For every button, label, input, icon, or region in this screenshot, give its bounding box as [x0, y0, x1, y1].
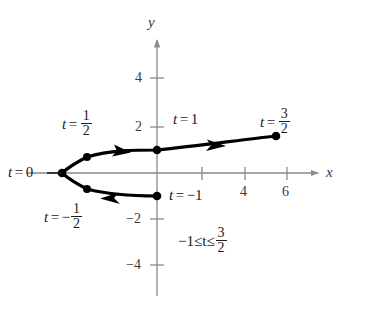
label-t-three-half-numerator: 3	[279, 107, 290, 121]
label-t-1: t = 1	[173, 112, 198, 127]
x-axis-label: x	[326, 164, 333, 181]
label-t-three-half-fraction: 3 2	[279, 107, 290, 137]
label-t-half-var: t	[62, 117, 66, 132]
range-upper-numerator: 3	[216, 226, 227, 240]
axes-group	[28, 40, 318, 296]
label-t-neg-1: t = − 1	[169, 188, 203, 203]
label-t-0-op: =	[15, 165, 23, 180]
label-t-half-denominator: 2	[81, 123, 92, 138]
label-t-neg-1-value: 1	[195, 188, 203, 203]
label-t-three-half-denominator: 2	[279, 121, 290, 136]
label-t-neg-half-sign: −	[62, 210, 70, 225]
y-tick-label-2: 2	[135, 119, 142, 135]
parametric-plot-svg	[0, 0, 371, 310]
x-tick-label-4: 4	[240, 184, 247, 200]
label-t-1-var: t	[173, 112, 177, 127]
label-t-neg-half-denominator: 2	[71, 216, 82, 231]
label-t-three-half-var: t	[260, 115, 264, 130]
figure-canvas: x y 4 2 −2 −4 4 6 t = 0 t = 1 2 t = − 1 …	[0, 0, 371, 310]
x-tick-label-6: 6	[282, 184, 289, 200]
range-rel-left: ≤	[194, 233, 202, 250]
range-upper-fraction: 3 2	[216, 226, 227, 256]
label-t-neg-half-numerator: 1	[71, 202, 82, 216]
label-t-neg-1-op: =	[176, 188, 184, 203]
label-t-half-op: =	[69, 117, 77, 132]
point-t-neg1	[153, 192, 162, 201]
label-t-half: t = 1 2	[62, 110, 93, 140]
label-t-neg-half-var: t	[44, 210, 48, 225]
label-t-half-fraction: 1 2	[81, 109, 92, 139]
label-t-0-var: t	[8, 165, 12, 180]
label-t-0-value: 0	[26, 165, 34, 180]
label-t-neg-half: t = − 1 2	[44, 203, 83, 233]
label-t-1-op: =	[180, 112, 188, 127]
curve-upper-branch	[62, 136, 276, 173]
label-t-three-half: t = 3 2	[260, 108, 291, 138]
label-t-half-numerator: 1	[81, 109, 92, 123]
curve-lower-branch	[62, 173, 157, 196]
parameter-range-annotation: −1 ≤ t ≤ 3 2	[178, 227, 228, 257]
label-t-neg-1-sign: −	[187, 188, 195, 203]
point-t-1	[153, 146, 162, 155]
point-t-half	[83, 153, 91, 161]
range-upper-denominator: 2	[216, 240, 227, 255]
point-t-neghalf	[83, 185, 91, 193]
label-t-neg-half-op: =	[51, 210, 59, 225]
label-t-1-value: 1	[191, 112, 199, 127]
y-tick-label-neg4: −4	[126, 257, 141, 273]
range-lower: −1	[178, 233, 194, 250]
range-rel-right: ≤	[206, 233, 214, 250]
label-t-neg-1-var: t	[169, 188, 173, 203]
y-tick-label-4: 4	[135, 70, 142, 86]
label-t-0: t = 0	[8, 165, 33, 180]
label-t-three-half-op: =	[267, 115, 275, 130]
y-axis-label: y	[148, 14, 155, 31]
label-t-neg-half-fraction: 1 2	[71, 202, 82, 232]
y-tick-label-neg2: −2	[126, 211, 141, 227]
